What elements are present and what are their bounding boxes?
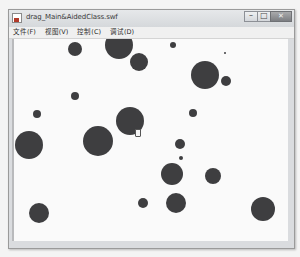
menu-bar: 文件(F) 视图(V) 控制(C) 调试(D) [9,27,294,39]
draggable-ball[interactable] [33,110,41,118]
title-bar[interactable]: drag_Main&AidedClass.swf – □ ✕ [9,10,294,27]
draggable-ball[interactable] [130,53,148,71]
flash-app-icon [12,13,22,23]
menu-file[interactable]: 文件(F) [13,27,36,38]
draggable-ball[interactable] [221,76,231,86]
flash-player-window: drag_Main&AidedClass.swf – □ ✕ 文件(F) 视图(… [8,9,295,249]
maximize-button[interactable]: □ [257,11,271,22]
maximize-icon: □ [258,10,270,22]
minimize-icon: – [245,10,257,22]
draggable-ball[interactable] [179,156,183,160]
draggable-ball[interactable] [251,197,275,221]
draggable-ball[interactable] [224,52,226,54]
menu-control[interactable]: 控制(C) [77,27,101,38]
draggable-ball[interactable] [205,168,221,184]
close-icon: ✕ [271,10,291,22]
draggable-ball[interactable] [29,203,49,223]
draggable-ball[interactable] [105,39,133,59]
draggable-ball[interactable] [170,42,176,48]
menu-view[interactable]: 视图(V) [45,27,69,38]
flash-stage[interactable] [12,39,288,241]
draggable-ball[interactable] [189,109,197,117]
window-title: drag_Main&AidedClass.swf [26,13,118,21]
draggable-ball[interactable] [191,61,219,89]
minimize-button[interactable]: – [244,11,258,22]
hand-cursor-icon [135,129,141,137]
draggable-ball[interactable] [138,198,148,208]
draggable-ball[interactable] [166,193,186,213]
caption-buttons: – □ ✕ [245,11,292,23]
draggable-ball[interactable] [161,163,183,185]
menu-debug[interactable]: 调试(D) [110,27,134,38]
draggable-ball[interactable] [71,92,79,100]
draggable-ball[interactable] [83,126,113,156]
close-button[interactable]: ✕ [270,11,292,22]
draggable-ball[interactable] [175,139,185,149]
draggable-ball[interactable] [15,131,43,159]
draggable-ball[interactable] [68,42,82,56]
